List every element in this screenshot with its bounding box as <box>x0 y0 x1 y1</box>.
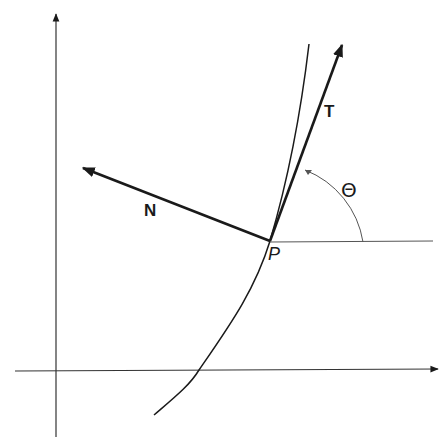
tangent-normal-diagram <box>0 0 442 440</box>
normal-label: N <box>144 202 156 219</box>
horizontal-reference-line <box>270 241 433 242</box>
point-label: P <box>268 245 280 263</box>
normal-vector <box>83 168 270 241</box>
curve <box>154 44 309 415</box>
x-axis <box>15 369 438 371</box>
angle-label: Θ <box>341 180 357 200</box>
tangent-vector <box>270 45 342 241</box>
tangent-label: T <box>324 103 334 120</box>
